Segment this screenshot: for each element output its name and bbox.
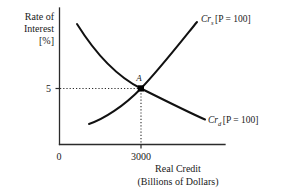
equilibrium-guides: [60, 89, 141, 145]
demand-curve-label: Crd[P = 100]: [208, 115, 258, 127]
equilibrium-point-label: A: [135, 73, 142, 83]
x-axis-title-line1: Real Credit: [155, 163, 201, 174]
y-tick-label-5: 5: [46, 83, 51, 94]
y-axis-title-line3: [%]: [39, 35, 54, 46]
x-axis-title: Real Credit (Billions of Dollars): [137, 163, 218, 188]
x-tick-label-3000: 3000: [131, 151, 151, 162]
supply-curve-label-condition: [P = 100]: [215, 14, 251, 24]
diagram-canvas: Rate of Interest [%] 5 0 3000 Real Credi…: [0, 0, 287, 190]
supply-curve-label: Crs[P = 100]: [201, 14, 251, 26]
y-axis-title: Rate of Interest [%]: [24, 11, 55, 46]
origin-label: 0: [57, 151, 62, 162]
supply-curve-label-subscript: s: [211, 19, 214, 26]
demand-curve-label-name: Cr: [208, 115, 218, 125]
x-axis-title-line2: (Billions of Dollars): [137, 176, 218, 188]
supply-demand-figure: Rate of Interest [%] 5 0 3000 Real Credi…: [0, 0, 287, 190]
equilibrium-point-marker: [138, 85, 144, 91]
y-axis-title-line1: Rate of: [25, 11, 55, 22]
demand-curve-label-condition: [P = 100]: [223, 115, 259, 125]
demand-curve: [77, 24, 205, 120]
y-axis-title-line2: Interest: [24, 23, 54, 34]
supply-curve-label-name: Cr: [201, 14, 211, 24]
demand-curve-label-subscript: d: [218, 120, 222, 127]
